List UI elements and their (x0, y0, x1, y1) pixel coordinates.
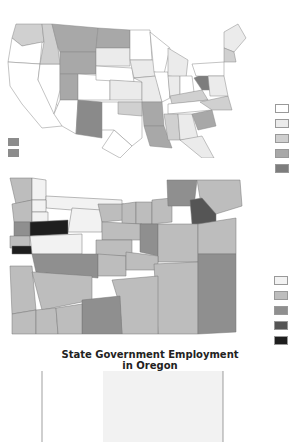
oregon-county-map (2, 170, 252, 340)
oregon-legend-swatches (274, 276, 288, 351)
data-area (103, 371, 223, 442)
hawaii-swatch (8, 149, 19, 157)
legend-swatch (274, 291, 288, 300)
inset-hawaii (8, 147, 25, 158)
employment-line-chart (0, 368, 292, 442)
us-choropleth-map (2, 18, 252, 158)
legend-swatch (274, 306, 288, 315)
inset-states (8, 136, 25, 158)
legend-swatch (275, 134, 289, 143)
alaska-swatch (8, 138, 19, 146)
us-legend-swatches (275, 104, 289, 179)
legend-swatch (275, 149, 289, 158)
legend-swatch (275, 164, 289, 173)
legend-swatch (274, 276, 288, 285)
inset-alaska (8, 136, 25, 147)
legend-swatch (274, 321, 288, 330)
legend-swatch (275, 104, 289, 113)
legend-swatch (274, 336, 288, 345)
legend-swatch (275, 119, 289, 128)
